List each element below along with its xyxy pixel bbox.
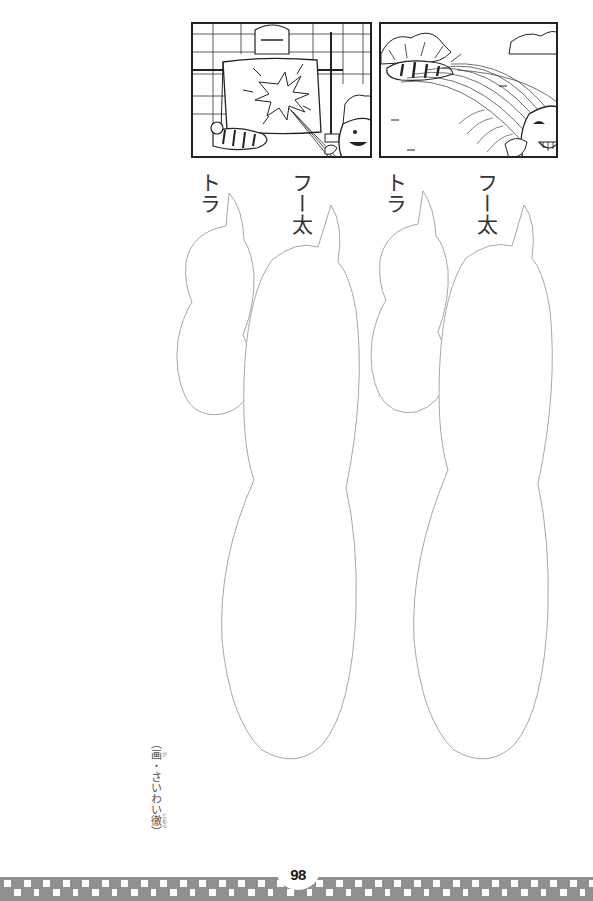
credit-name-kanji: 徹とおる — [149, 815, 162, 826]
speaker-label-futa-2: フー太 — [475, 172, 496, 235]
hose-spray-illustration — [381, 24, 558, 158]
speaker-label-futa-1: フー太 — [290, 172, 311, 235]
water-splash-illustration — [193, 24, 372, 158]
credit-separator: ・ — [149, 760, 162, 771]
credit-prefix: 画が — [149, 749, 162, 760]
artist-credit: （画が・さいわい徹とおる） — [150, 738, 168, 837]
speaker-label-tora-1: トラ — [198, 172, 219, 214]
credit-close-paren: ） — [149, 826, 162, 837]
speech-bubble-tora-2[interactable] — [371, 191, 448, 413]
speaker-label-tora-2: トラ — [384, 172, 405, 214]
page-number: 98 — [275, 866, 321, 883]
speech-bubble-tora-1[interactable] — [177, 193, 254, 415]
credit-open-paren: （ — [149, 738, 162, 749]
comic-panel-2 — [379, 22, 558, 158]
comic-panel-1 — [191, 22, 372, 158]
credit-name-kana: さいわい — [149, 771, 162, 815]
